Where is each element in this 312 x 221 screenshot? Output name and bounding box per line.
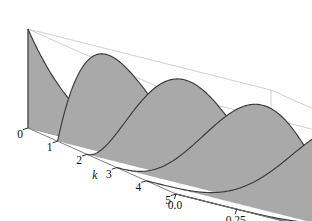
k-tick-4 <box>141 181 146 183</box>
k-tick-0 <box>23 128 28 130</box>
chart-canvas: 1.00.750.500.2500.00.250.500.751.0θ01234… <box>0 0 312 221</box>
theta-tick-label-1: 0.25 <box>226 214 246 221</box>
k-tick-3 <box>112 168 117 170</box>
surface-slices <box>28 29 312 221</box>
k-tick-label-1: 1 <box>47 141 53 153</box>
k-tick-label-5: 5 <box>165 194 171 206</box>
k-tick-1 <box>53 141 58 143</box>
k-tick-label-4: 4 <box>136 181 142 193</box>
k-tick-label-0: 0 <box>17 128 23 140</box>
k-tick-label-3: 3 <box>106 168 112 180</box>
k-tick-2 <box>82 154 87 156</box>
k-tick-label-2: 2 <box>76 154 82 166</box>
binomial-waterfall-3d-plot: 1.00.750.500.2500.00.250.500.751.0θ01234… <box>0 0 312 221</box>
box-edge <box>28 29 271 90</box>
k-axis-title: k <box>92 169 98 181</box>
